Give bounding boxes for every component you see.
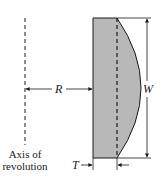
- thickness-label: T: [72, 158, 80, 172]
- axis-caption-line1: Axis of: [9, 148, 42, 160]
- radius-label: R: [54, 82, 63, 96]
- width-label: W: [143, 82, 154, 96]
- axis-caption-line2: revolution: [2, 160, 48, 172]
- lens-cross-section-diagram: W R T Axis of revolution: [0, 0, 161, 180]
